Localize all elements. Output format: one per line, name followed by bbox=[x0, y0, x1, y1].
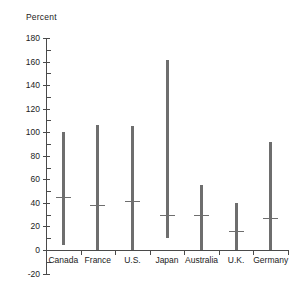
y-axis-minor-tick bbox=[47, 215, 51, 216]
median-marker bbox=[160, 215, 175, 216]
median-marker bbox=[90, 205, 105, 206]
range-bar bbox=[269, 142, 272, 250]
y-axis-tick-label: 40 bbox=[8, 198, 40, 208]
y-axis-major-tick bbox=[43, 156, 50, 157]
y-axis-major-tick bbox=[43, 132, 50, 133]
median-marker bbox=[56, 197, 71, 198]
median-marker bbox=[263, 218, 278, 219]
y-axis-tick-label: 20 bbox=[8, 221, 40, 231]
x-axis-tick bbox=[288, 250, 289, 255]
y-axis-minor-tick bbox=[47, 97, 51, 98]
y-axis-major-tick bbox=[43, 274, 50, 275]
plot-area: -20020406080100120140160180CanadaFranceU… bbox=[0, 0, 295, 294]
y-axis-major-tick bbox=[43, 85, 50, 86]
y-axis-minor-tick bbox=[47, 73, 51, 74]
y-axis-tick-label: 160 bbox=[8, 57, 40, 67]
range-bar bbox=[131, 126, 134, 250]
range-bar bbox=[200, 185, 203, 250]
range-bar bbox=[166, 60, 169, 238]
range-bar bbox=[62, 132, 65, 245]
median-marker bbox=[229, 231, 244, 232]
y-axis-tick-label: 80 bbox=[8, 151, 40, 161]
y-axis-tick-label: -20 bbox=[8, 269, 40, 279]
y-axis-tick-label: 120 bbox=[8, 104, 40, 114]
percent-range-chart: Percent -20020406080100120140160180Canad… bbox=[0, 0, 295, 294]
y-axis-minor-tick bbox=[47, 144, 51, 145]
y-axis-minor-tick bbox=[47, 191, 51, 192]
y-axis-tick-label: 0 bbox=[8, 245, 40, 255]
median-marker bbox=[125, 201, 140, 202]
range-bar bbox=[235, 203, 238, 250]
y-axis-tick-label: 140 bbox=[8, 80, 40, 90]
y-axis-major-tick bbox=[43, 226, 50, 227]
y-axis-major-tick bbox=[43, 179, 50, 180]
y-axis-tick-label: 100 bbox=[8, 127, 40, 137]
y-axis-major-tick bbox=[43, 62, 50, 63]
y-axis-tick-label: 60 bbox=[8, 174, 40, 184]
x-axis-category-label: Germany bbox=[249, 255, 292, 265]
y-axis-minor-tick bbox=[47, 238, 51, 239]
y-axis-major-tick bbox=[43, 109, 50, 110]
y-axis-major-tick bbox=[43, 38, 50, 39]
y-axis-minor-tick bbox=[47, 50, 51, 51]
y-axis-major-tick bbox=[43, 203, 50, 204]
y-axis-tick-label: 180 bbox=[8, 33, 40, 43]
y-axis-minor-tick bbox=[47, 120, 51, 121]
x-axis-line bbox=[46, 250, 288, 251]
y-axis-minor-tick bbox=[47, 168, 51, 169]
median-marker bbox=[194, 215, 209, 216]
range-bar bbox=[96, 125, 99, 250]
